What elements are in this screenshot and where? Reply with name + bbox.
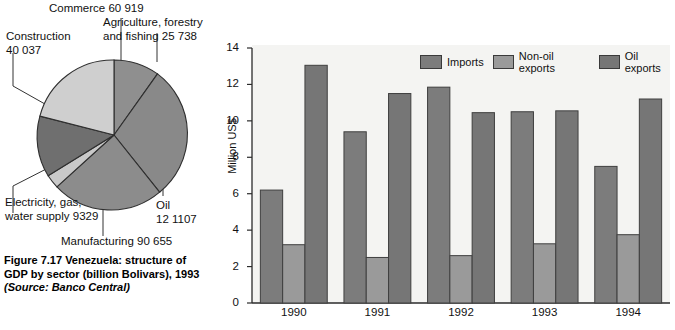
bar-imports-1991 <box>344 132 366 303</box>
bar-imports-1992 <box>428 87 450 303</box>
bar-non-oil-exports-1992 <box>450 256 472 303</box>
pie-label-electricity: Electricity, gas, water supply 9329 <box>5 196 98 223</box>
legend-label: Imports <box>447 56 484 68</box>
bar-imports-1994 <box>595 166 617 303</box>
bar-imports-1993 <box>511 112 533 303</box>
legend-item-non-oil-exports[interactable]: Non-oil exports <box>493 50 590 74</box>
bar-non-oil-exports-1993 <box>533 244 555 303</box>
figure-7-17: Commerce 60 919 Agriculture, forestry an… <box>0 0 675 330</box>
pie-label-agriculture: Agriculture, forestry and fishing 25 738 <box>103 16 203 43</box>
pie-label-oil: Oil 12 1107 <box>156 199 197 226</box>
y-tick-marks <box>247 48 252 303</box>
caption-line-1: Figure 7.17 Venezuela: structure of <box>4 254 186 266</box>
bar-non-oil-exports-1994 <box>617 235 639 303</box>
legend-label: Oil exports <box>625 50 675 74</box>
caption-line-2: GDP by sector (billion Bolivars), 1993 <box>4 268 199 280</box>
legend-item-oil-exports[interactable]: Oil exports <box>599 50 675 74</box>
x-tick-label-1990: 1990 <box>264 306 324 318</box>
pie-label-manufacturing: Manufacturing 90 655 <box>61 235 172 249</box>
pie-label-construction: Construction 40 037 <box>6 30 71 57</box>
bar-oil-exports-1991 <box>389 94 411 303</box>
figure-caption: Figure 7.17 Venezuela: structure of GDP … <box>4 254 209 295</box>
bar-oil-exports-1993 <box>556 111 578 303</box>
bar-non-oil-exports-1990 <box>283 245 305 303</box>
bar-oil-exports-1990 <box>305 65 327 303</box>
legend-item-imports[interactable]: Imports <box>420 55 484 69</box>
pie-chart-panel: Commerce 60 919 Agriculture, forestry an… <box>0 0 215 330</box>
bar-imports-1990 <box>260 190 282 303</box>
x-tick-label-1991: 1991 <box>347 306 407 318</box>
bar-chart-panel: Million US$ 02468101214 ImportsNon-oil e… <box>215 0 675 330</box>
bar-non-oil-exports-1991 <box>366 257 388 303</box>
pie-label-commerce: Commerce 60 919 <box>49 2 144 16</box>
x-tick-label-1994: 1994 <box>598 306 658 318</box>
legend-swatch-icon <box>599 55 620 69</box>
bar-oil-exports-1992 <box>472 113 494 303</box>
caption-source: (Source: Banco Central) <box>4 281 130 293</box>
x-tick-label-1992: 1992 <box>431 306 491 318</box>
legend-swatch-icon <box>493 55 514 69</box>
legend-swatch-icon <box>420 55 442 69</box>
pie-slices <box>37 60 187 210</box>
chart-legend: ImportsNon-oil exportsOil exports <box>420 50 675 74</box>
x-tick-label-1993: 1993 <box>515 306 575 318</box>
legend-label: Non-oil exports <box>519 50 590 74</box>
bar-oil-exports-1994 <box>639 99 661 303</box>
